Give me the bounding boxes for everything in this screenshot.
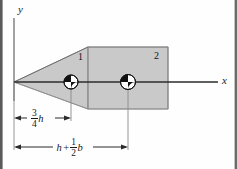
right-page-border (235, 0, 237, 169)
y-axis-label: y (18, 4, 23, 15)
fraction-three-quarters: 3 4 (31, 109, 38, 129)
dimension-variable-b: b (77, 143, 83, 154)
centroid-marker-2 (121, 75, 136, 90)
fraction-denominator: 2 (70, 148, 77, 158)
fraction-numerator: 3 (31, 109, 38, 119)
composite-area-figure: y x 1 2 3 4 h h + 1 2 b (0, 0, 237, 169)
left-page-border (0, 0, 3, 169)
dim1-right-arrow (64, 116, 71, 121)
plus-operator: + (62, 143, 70, 154)
dimension-label-three-quarter-h: 3 4 h (31, 109, 44, 129)
dim2-right-arrow (121, 145, 128, 150)
dim1-left-arrow (14, 116, 21, 121)
dim2-left-arrow (14, 145, 21, 150)
shape-label-1: 1 (78, 52, 83, 62)
shape-label-2: 2 (154, 51, 159, 61)
fraction-denominator: 4 (31, 119, 38, 129)
x-axis-label: x (222, 75, 227, 86)
figure-canvas (0, 0, 237, 169)
shape-fills (14, 47, 168, 109)
fraction-one-half: 1 2 (70, 138, 77, 158)
dimension-variable-h: h (38, 114, 44, 125)
dimension-label-h-plus-half-b: h + 1 2 b (56, 138, 83, 158)
centroid-marker-1 (64, 75, 78, 89)
fraction-numerator: 1 (70, 138, 77, 148)
